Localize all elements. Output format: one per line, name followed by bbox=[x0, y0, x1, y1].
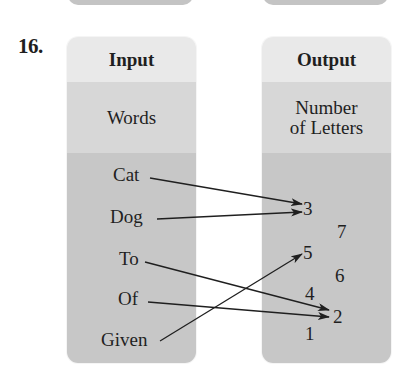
arrow-of-to-2 bbox=[148, 302, 329, 317]
mapping-arrows bbox=[0, 0, 403, 383]
arrow-cat-to-3 bbox=[150, 178, 302, 204]
arrow-to-to-2 bbox=[145, 262, 329, 310]
arrow-dog-to-3 bbox=[157, 212, 302, 219]
